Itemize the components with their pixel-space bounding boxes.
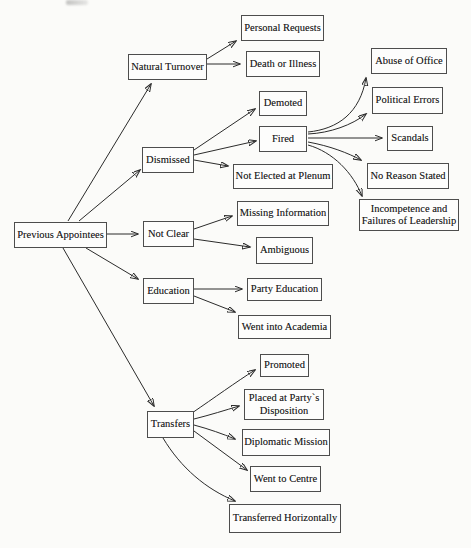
node-party-education: Party Education: [247, 278, 322, 301]
edge-previous-appointees-dismissed: [79, 170, 140, 221]
node-dismissed: Dismissed: [142, 147, 194, 173]
edge-not-clear-ambiguous: [194, 239, 250, 247]
node-transferred-horizontally: Transferred Horizontally: [229, 504, 341, 533]
node-incompetence-failures: Incompetence and Failures of Leadership: [359, 199, 459, 231]
edge-previous-appointees-transfers: [63, 248, 154, 406]
node-natural-turnover: Natural Turnover: [128, 54, 207, 80]
edge-dismissed-not-elected-at-plenum: [194, 160, 228, 166]
node-personal-requests: Personal Requests: [241, 15, 324, 41]
node-went-to-centre: Went to Centre: [250, 466, 321, 492]
edge-previous-appointees-natural-turnover: [68, 84, 151, 221]
edge-transfers-diplomatic-mission: [194, 425, 235, 439]
node-ambiguous: Ambiguous: [256, 237, 313, 264]
edge-natural-turnover-personal-requests: [207, 41, 236, 59]
edge-dismissed-fired: [194, 141, 256, 155]
edge-previous-appointees-education: [86, 248, 138, 279]
node-placed-at-partys-disposition: Placed at Party`s Disposition: [244, 389, 324, 420]
node-missing-information: Missing Information: [237, 201, 329, 226]
edge-fired-no-reason-stated: [308, 142, 361, 160]
node-went-into-academia: Went into Academia: [238, 315, 331, 339]
node-education: Education: [143, 278, 194, 304]
edge-dismissed-demoted: [194, 109, 255, 150]
node-diplomatic-mission: Diplomatic Mission: [242, 429, 330, 456]
node-death-or-illness: Death or Illness: [246, 51, 320, 77]
edge-not-clear-missing-information: [194, 216, 232, 229]
node-transfers: Transfers: [147, 411, 194, 438]
node-fired: Fired: [259, 126, 307, 152]
node-previous-appointees: Previous Appointees: [14, 222, 107, 248]
edge-transfers-placed-at-partys-disposition: [194, 406, 239, 419]
edge-fired-political-errors: [308, 114, 366, 134]
node-promoted: Promoted: [260, 354, 309, 377]
node-not-elected-at-plenum: Not Elected at Plenum: [233, 164, 333, 189]
node-abuse-of-office: Abuse of Office: [371, 48, 447, 74]
edge-fired-abuse-of-office: [308, 78, 366, 132]
node-no-reason-stated: No Reason Stated: [367, 163, 449, 189]
node-scandals: Scandals: [387, 126, 433, 151]
edges-layer: [0, 0, 471, 548]
edge-transfers-transferred-horizontally: [163, 438, 235, 501]
scan-artifact: [66, 0, 88, 5]
edge-education-went-into-academia: [194, 296, 235, 312]
node-not-clear: Not Clear: [143, 221, 194, 247]
flowchart-canvas: Previous Appointees Natural Turnover Dis…: [0, 0, 471, 548]
node-political-errors: Political Errors: [372, 87, 443, 114]
node-demoted: Demoted: [259, 91, 307, 116]
edge-transfers-went-to-centre: [194, 431, 247, 470]
